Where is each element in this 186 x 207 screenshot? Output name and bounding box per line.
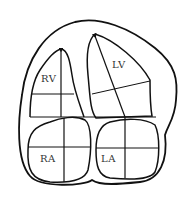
- heart-diagram: RV LV RA LA: [0, 0, 186, 207]
- heart-outline-drawing: [0, 0, 186, 207]
- la-chamber: [96, 119, 159, 179]
- rv-label: RV: [41, 74, 56, 84]
- lv-short-axis: [92, 81, 150, 94]
- rv-chamber: [30, 49, 84, 117]
- la-label: LA: [101, 154, 116, 164]
- ra-chamber: [28, 117, 91, 182]
- lv-chamber: [87, 34, 152, 118]
- ra-label: RA: [40, 154, 56, 164]
- lv-label: LV: [112, 60, 126, 70]
